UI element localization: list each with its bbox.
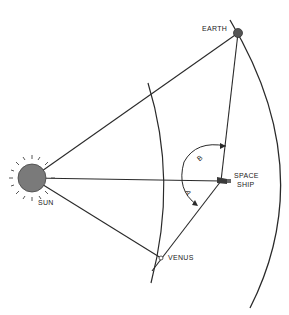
earth-icon — [234, 29, 243, 38]
spaceship-icon — [217, 177, 227, 184]
arrow-a-icon — [192, 200, 198, 206]
line-sun-venus — [32, 178, 161, 258]
diagram-canvas: B A SUN EARTH — [0, 0, 289, 315]
line-spaceship-earth — [221, 33, 238, 181]
angle-b-arc — [184, 145, 226, 162]
earth-orbit — [230, 20, 281, 308]
spaceship-label-line2: SHIP — [237, 181, 255, 188]
angle-b-label: B — [196, 154, 204, 163]
line-sun-spaceship — [32, 178, 221, 181]
venus-label: VENUS — [168, 254, 194, 261]
sun-label: SUN — [38, 199, 54, 206]
orbital-diagram: B A SUN EARTH — [0, 0, 289, 315]
angle-a-arc — [182, 162, 197, 205]
line-sun-earth — [32, 33, 238, 178]
earth-label: EARTH — [202, 25, 227, 32]
angle-a-label: A — [184, 189, 192, 196]
venus-orbit — [148, 83, 164, 283]
venus-icon — [159, 256, 163, 260]
spaceship-label-line1: SPACE — [234, 172, 259, 179]
